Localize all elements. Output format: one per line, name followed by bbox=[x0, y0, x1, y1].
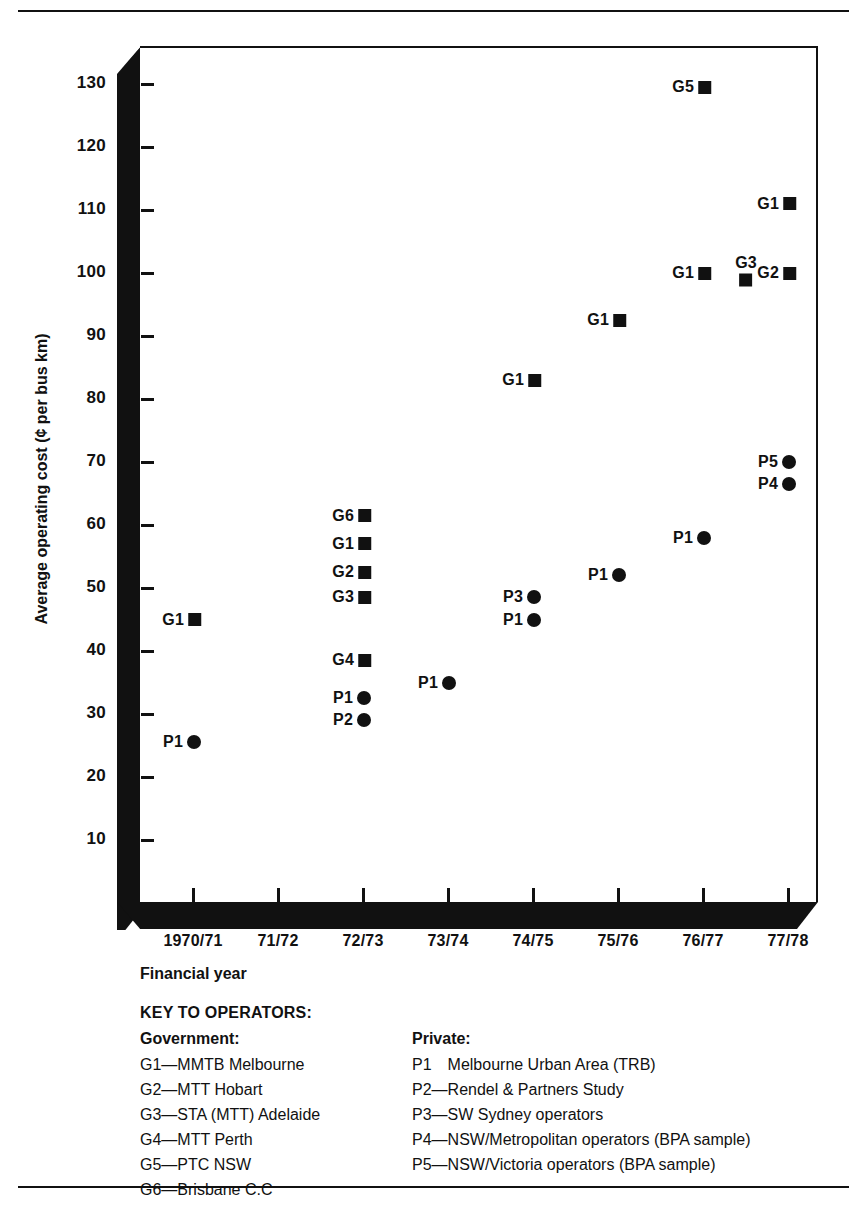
data-point: P1 bbox=[588, 566, 626, 584]
circle-marker-icon bbox=[442, 676, 456, 690]
x-tick bbox=[362, 888, 365, 903]
y-tick-label: 120 bbox=[58, 136, 106, 156]
x-tick-label: 75/76 bbox=[597, 932, 638, 950]
y-tick bbox=[141, 587, 154, 590]
data-point: P1 bbox=[163, 733, 201, 751]
square-marker-icon bbox=[740, 273, 753, 286]
plot-area bbox=[140, 46, 818, 902]
circle-marker-icon bbox=[187, 735, 201, 749]
y-axis-bar bbox=[117, 46, 141, 904]
y-tick bbox=[141, 272, 154, 275]
x-tick bbox=[617, 888, 620, 903]
key-item-private: P4—NSW/Metropolitan operators (BPA sampl… bbox=[412, 1127, 832, 1152]
key-title: KEY TO OPERATORS: bbox=[140, 1000, 840, 1025]
data-point-label: P2 bbox=[333, 711, 353, 729]
y-tick-label: 80 bbox=[58, 388, 106, 408]
key-item-government: G6—Brisbane C.C bbox=[140, 1177, 412, 1202]
data-point: G3 bbox=[735, 253, 757, 286]
data-point-label: G1 bbox=[672, 264, 694, 282]
key-column-government: Government: G1—MMTB MelbourneG2—MTT Hoba… bbox=[140, 1026, 412, 1202]
key-item-government: G2—MTT Hobart bbox=[140, 1077, 412, 1102]
data-point-label: G3 bbox=[332, 588, 354, 606]
x-tick-label: 76/77 bbox=[682, 932, 723, 950]
square-marker-icon bbox=[783, 197, 796, 210]
data-point: P1 bbox=[503, 611, 541, 629]
data-point: P1 bbox=[673, 529, 711, 547]
y-tick bbox=[141, 776, 154, 779]
data-point: P1 bbox=[418, 674, 456, 692]
x-tick-label: 73/74 bbox=[427, 932, 468, 950]
key-item-government: G1—MMTB Melbourne bbox=[140, 1052, 412, 1077]
data-point: P2 bbox=[333, 711, 371, 729]
square-marker-icon bbox=[698, 81, 711, 94]
x-tick bbox=[702, 888, 705, 903]
y-tick-label: 130 bbox=[58, 73, 106, 93]
data-point-label: G1 bbox=[587, 311, 609, 329]
circle-marker-icon bbox=[697, 531, 711, 545]
data-point-label: P1 bbox=[163, 733, 183, 751]
y-tick-label: 90 bbox=[58, 325, 106, 345]
data-point-label: P3 bbox=[503, 588, 523, 606]
data-point-label: G1 bbox=[757, 195, 779, 213]
y-tick-label: 40 bbox=[58, 640, 106, 660]
key-heading-government: Government: bbox=[140, 1026, 412, 1051]
y-tick bbox=[141, 524, 154, 527]
y-tick bbox=[141, 839, 154, 842]
square-marker-icon bbox=[358, 537, 371, 550]
circle-marker-icon bbox=[612, 568, 626, 582]
x-tick bbox=[192, 888, 195, 903]
key-column-private: Private: P1 Melbourne Urban Area (TRB)P2… bbox=[412, 1026, 832, 1202]
data-point-label: G5 bbox=[672, 78, 694, 96]
x-tick bbox=[277, 888, 280, 903]
data-point: P1 bbox=[333, 689, 371, 707]
square-marker-icon bbox=[783, 267, 796, 280]
key-item-government: G5—PTC NSW bbox=[140, 1152, 412, 1177]
circle-marker-icon bbox=[782, 455, 796, 469]
data-point: G4 bbox=[332, 651, 371, 669]
circle-marker-icon bbox=[782, 477, 796, 491]
data-point-label: G6 bbox=[332, 507, 354, 525]
data-point-label: P5 bbox=[758, 453, 778, 471]
y-tick bbox=[141, 713, 154, 716]
y-tick bbox=[141, 209, 154, 212]
data-point-label: P1 bbox=[333, 689, 353, 707]
data-point-label: G2 bbox=[757, 264, 779, 282]
y-tick bbox=[141, 398, 154, 401]
y-tick-label: 50 bbox=[58, 577, 106, 597]
key-heading-private: Private: bbox=[412, 1026, 832, 1051]
data-point-label: P4 bbox=[758, 475, 778, 493]
key-item-government: G4—MTT Perth bbox=[140, 1127, 412, 1152]
key-item-private: P3—SW Sydney operators bbox=[412, 1102, 832, 1127]
data-point: G1 bbox=[587, 311, 626, 329]
square-marker-icon bbox=[358, 654, 371, 667]
square-marker-icon bbox=[188, 613, 201, 626]
data-point: G1 bbox=[332, 535, 371, 553]
top-rule bbox=[18, 10, 849, 12]
x-tick-label: 72/73 bbox=[342, 932, 383, 950]
y-tick-label: 30 bbox=[58, 703, 106, 723]
data-point-label: G2 bbox=[332, 563, 354, 581]
x-axis-bar bbox=[117, 902, 818, 929]
data-point: G1 bbox=[757, 195, 796, 213]
y-tick-label: 60 bbox=[58, 514, 106, 534]
data-point: G3 bbox=[332, 588, 371, 606]
y-tick-label: 20 bbox=[58, 766, 106, 786]
data-point-label: P1 bbox=[418, 674, 438, 692]
circle-marker-icon bbox=[357, 691, 371, 705]
data-point-label: G4 bbox=[332, 651, 354, 669]
square-marker-icon bbox=[698, 267, 711, 280]
data-point: P5 bbox=[758, 453, 796, 471]
square-marker-icon bbox=[528, 374, 541, 387]
circle-marker-icon bbox=[357, 713, 371, 727]
y-tick bbox=[141, 650, 154, 653]
data-point: G2 bbox=[332, 563, 371, 581]
key-item-private: P1 Melbourne Urban Area (TRB) bbox=[412, 1052, 832, 1077]
y-tick-label: 10 bbox=[58, 829, 106, 849]
y-tick bbox=[141, 83, 154, 86]
data-point: G2 bbox=[757, 264, 796, 282]
data-point-label: G1 bbox=[502, 371, 524, 389]
data-point: P3 bbox=[503, 588, 541, 606]
data-point: G1 bbox=[162, 611, 201, 629]
x-tick-label: 77/78 bbox=[767, 932, 808, 950]
x-tick bbox=[532, 888, 535, 903]
